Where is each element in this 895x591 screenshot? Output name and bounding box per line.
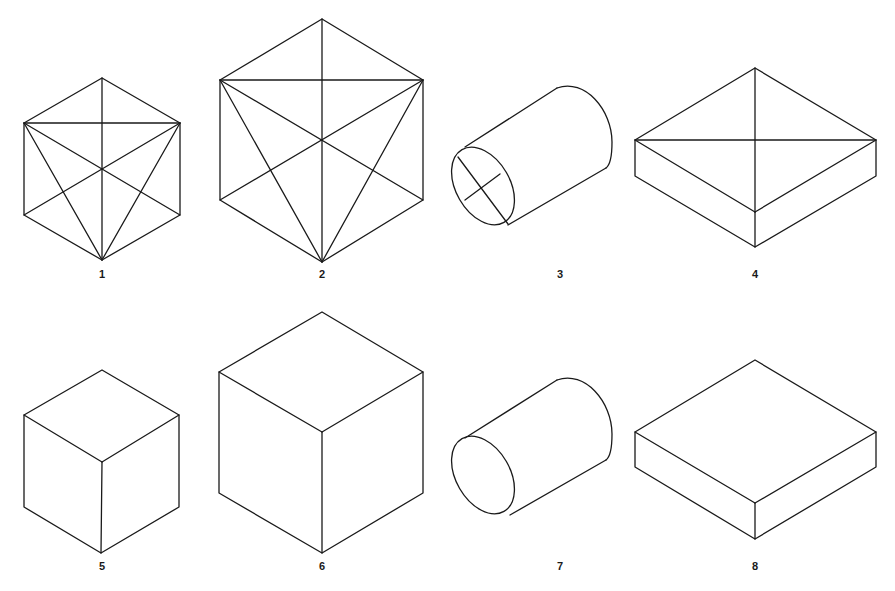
figure-label-1: 1 bbox=[87, 268, 117, 280]
figure-label-7: 7 bbox=[545, 560, 575, 572]
figure-label-3: 3 bbox=[545, 268, 575, 280]
figure-6-cube bbox=[219, 312, 423, 553]
isometric-shapes-diagram bbox=[0, 0, 895, 591]
figure-2-cube-with-diagonals bbox=[220, 19, 423, 262]
figure-8-flat-box bbox=[635, 360, 876, 539]
figure-1-cube-with-diagonals bbox=[24, 78, 180, 260]
figure-label-2: 2 bbox=[307, 268, 337, 280]
figure-label-8: 8 bbox=[740, 560, 770, 572]
figure-4-flat-box-with-diagonals bbox=[635, 68, 876, 247]
figure-3-cylinder-with-center-lines bbox=[439, 86, 612, 236]
figure-label-4: 4 bbox=[740, 268, 770, 280]
figure-7-cylinder bbox=[439, 378, 612, 525]
figure-label-6: 6 bbox=[307, 560, 337, 572]
figure-label-5: 5 bbox=[87, 560, 117, 572]
figure-5-cube bbox=[24, 370, 179, 553]
